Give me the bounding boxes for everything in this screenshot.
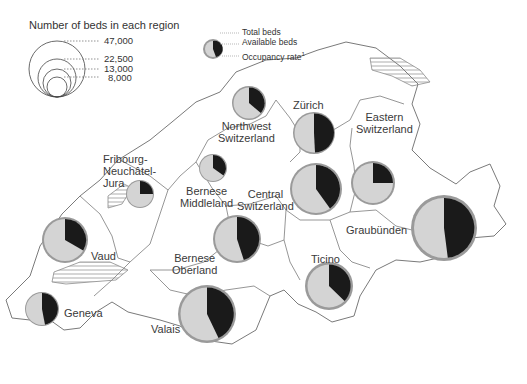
- legend-symbol-pie: [203, 33, 240, 59]
- legend-occupancy-rate: Occupancy rate1: [242, 50, 305, 62]
- label-central-switzerland: Central Switzerland: [237, 188, 294, 212]
- pie-vaud: [42, 217, 88, 263]
- label-eastern-switzerland: Eastern Switzerland: [356, 111, 413, 135]
- pie-valais: [178, 285, 236, 343]
- label-graubunden: Graubünden: [346, 224, 407, 236]
- pie-zurich: [293, 112, 335, 154]
- label-northwest-switzerland: Northwest Switzerland: [218, 120, 275, 144]
- legend-title: Number of beds in each region: [29, 19, 179, 31]
- label-fribourg-neuchatel-jura: Fribourg- Neuchâtel- Jura: [103, 153, 156, 189]
- pie-bernese-middleland: [199, 154, 227, 182]
- label-bernese-oberland: Bernese Oberland: [172, 252, 217, 276]
- pie-geneva: [25, 292, 59, 326]
- label-valais: Valais: [151, 323, 180, 335]
- pie-eastern-switzerland: [351, 161, 395, 205]
- pie-graubunden: [411, 195, 477, 261]
- legend-available-beds: Available beds: [242, 38, 297, 48]
- pie-northwest-switzerland: [232, 86, 266, 120]
- legend-size-8000: 8,000: [108, 72, 132, 83]
- label-bernese-middleland: Bernese Middleland: [180, 185, 233, 209]
- label-geneva: Geneva: [64, 307, 103, 319]
- pie-ticino: [305, 262, 353, 310]
- pie-bernese-oberland: [213, 215, 261, 263]
- legend-size-circles: [29, 41, 100, 97]
- label-vaud: Vaud: [91, 250, 116, 262]
- pie-central-switzerland: [290, 163, 342, 215]
- label-ticino: Ticino: [311, 253, 340, 265]
- legend-size-47000: 47,000: [104, 35, 133, 46]
- label-zurich: Zürich: [293, 99, 324, 111]
